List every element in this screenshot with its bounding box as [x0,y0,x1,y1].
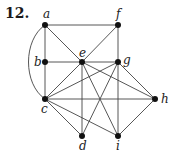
vertex-g [115,59,121,65]
edge-c-i [45,99,118,136]
graph-diagram: abcdefghi [0,0,175,159]
edge-g-c [45,62,118,99]
edge-h-i [118,99,155,136]
vertex-f [115,22,121,28]
vertex-label-a: a [43,7,50,21]
vertex-label-h: h [161,92,169,106]
edge-e-h [82,62,155,99]
vertex-b [42,59,48,65]
edge-c-d [45,99,82,136]
vertex-label-e: e [79,46,86,60]
vertex-h [152,96,158,102]
vertex-label-d: d [79,139,87,153]
vertex-label-g: g [123,53,131,67]
vertex-label-i: i [116,139,120,153]
vertex-label-f: f [115,7,123,21]
edge-e-c [45,62,82,99]
edge-g-h [118,62,155,99]
edge-a-e [45,25,82,62]
edge-f-e [82,25,118,62]
vertex-label-b: b [34,55,42,69]
vertex-label-c: c [41,102,48,116]
vertex-a [42,22,48,28]
